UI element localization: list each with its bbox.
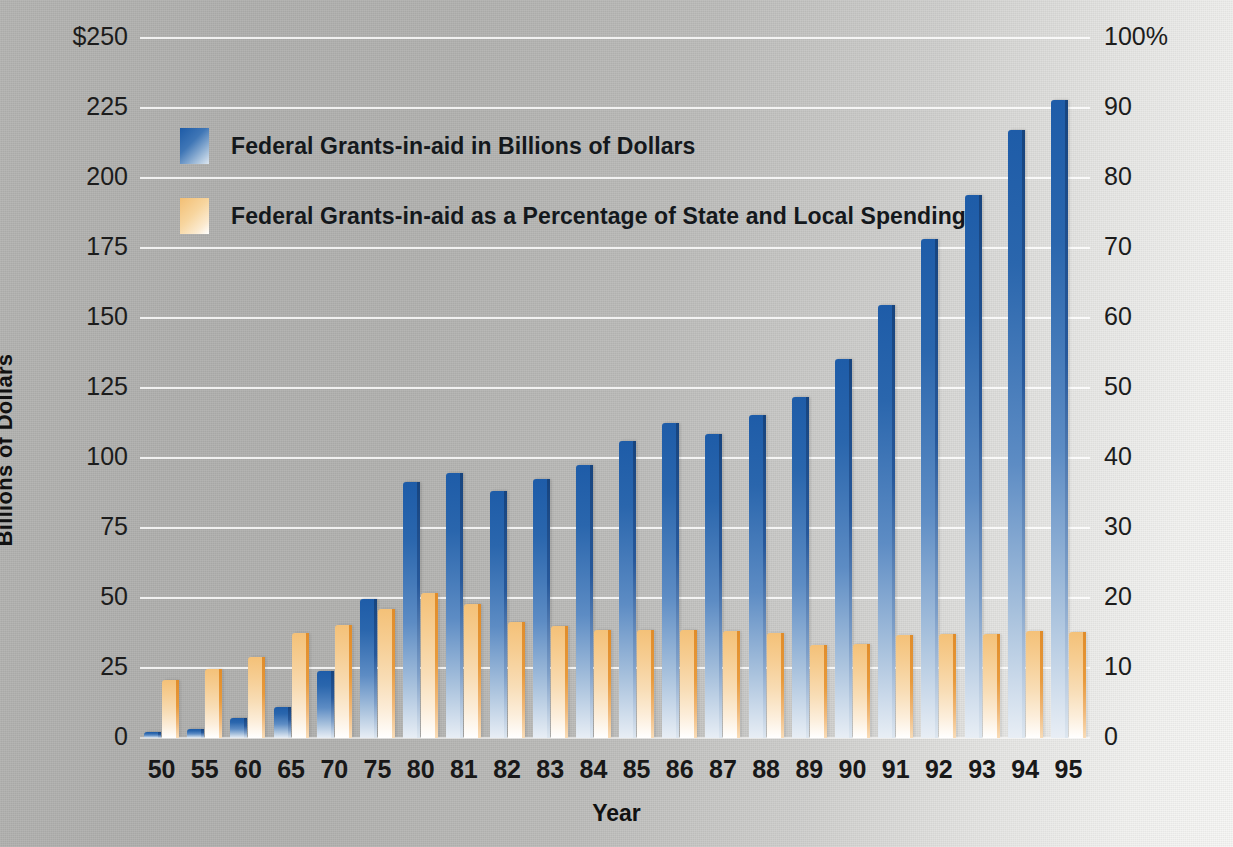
bar-billions-86	[662, 423, 679, 738]
bar-percent-94	[1026, 631, 1043, 738]
x-tick-70: 70	[313, 755, 356, 784]
x-tick-85: 85	[615, 755, 658, 784]
x-tick-86: 86	[658, 755, 701, 784]
bar-billions-93	[965, 195, 982, 738]
gridline-150	[140, 317, 1090, 319]
y-tick-left-150: 150	[8, 302, 128, 331]
legend-swatch-orange-icon	[180, 198, 209, 234]
x-tick-84: 84	[572, 755, 615, 784]
gridline-100	[140, 457, 1090, 459]
chart-legend: Federal Grants-in-aid in Billions of Dol…	[180, 128, 966, 268]
gridline-250	[140, 37, 1090, 39]
y-tick-right-0: 0	[1104, 722, 1224, 751]
x-axis-label: Year	[0, 800, 1233, 827]
bar-billions-91	[878, 305, 895, 738]
bar-percent-86	[680, 630, 697, 738]
legend-label-percentage: Federal Grants-in-aid as a Percentage of…	[231, 203, 966, 230]
bar-percent-75	[378, 609, 395, 738]
bar-billions-87	[705, 434, 722, 738]
bar-billions-83	[533, 479, 550, 738]
bar-billions-65	[274, 707, 291, 738]
bar-billions-60	[230, 718, 247, 738]
x-tick-80: 80	[399, 755, 442, 784]
bar-billions-81	[446, 473, 463, 738]
x-tick-50: 50	[140, 755, 183, 784]
y-tick-right-90: 90	[1104, 92, 1224, 121]
y-tick-left-225: 225	[8, 92, 128, 121]
x-tick-90: 90	[831, 755, 874, 784]
bar-billions-75	[360, 599, 377, 738]
y-tick-right-70: 70	[1104, 232, 1224, 261]
bar-percent-93	[983, 634, 1000, 738]
legend-swatch-blue-icon	[180, 128, 209, 164]
bar-percent-81	[464, 604, 481, 738]
x-tick-87: 87	[701, 755, 744, 784]
y-tick-right-60: 60	[1104, 302, 1224, 331]
bar-percent-87	[723, 631, 740, 738]
bar-percent-89	[810, 645, 827, 738]
bar-billions-70	[317, 671, 334, 738]
x-tick-92: 92	[917, 755, 960, 784]
y-tick-left-100: 100	[8, 442, 128, 471]
x-tick-55: 55	[183, 755, 226, 784]
bar-percent-88	[767, 633, 784, 738]
bar-percent-95	[1069, 632, 1086, 738]
bar-billions-90	[835, 359, 852, 738]
x-tick-60: 60	[226, 755, 269, 784]
bar-percent-80	[421, 593, 438, 738]
bar-percent-91	[896, 635, 913, 738]
bar-percent-70	[335, 625, 352, 738]
x-tick-89: 89	[788, 755, 831, 784]
x-tick-65: 65	[270, 755, 313, 784]
legend-item-percentage: Federal Grants-in-aid as a Percentage of…	[180, 198, 966, 234]
x-tick-95: 95	[1047, 755, 1090, 784]
y-tick-left-250: $250	[8, 22, 128, 51]
x-tick-91: 91	[874, 755, 917, 784]
y-tick-left-50: 50	[8, 582, 128, 611]
x-tick-94: 94	[1004, 755, 1047, 784]
chart-page: Federal Grants-in-aid to State and Local…	[0, 0, 1233, 847]
gridline-50	[140, 597, 1090, 599]
y-tick-right-100: 100%	[1104, 22, 1224, 51]
bar-percent-85	[637, 630, 654, 739]
x-tick-75: 75	[356, 755, 399, 784]
bar-percent-82	[508, 622, 525, 738]
y-tick-right-40: 40	[1104, 442, 1224, 471]
bar-billions-94	[1008, 130, 1025, 738]
bar-percent-55	[205, 669, 222, 738]
bar-billions-84	[576, 465, 593, 738]
bar-billions-80	[403, 482, 420, 738]
x-tick-93: 93	[960, 755, 1003, 784]
y-tick-right-30: 30	[1104, 512, 1224, 541]
x-tick-83: 83	[529, 755, 572, 784]
y-tick-right-10: 10	[1104, 652, 1224, 681]
bar-billions-55	[187, 729, 204, 738]
legend-label-billions: Federal Grants-in-aid in Billions of Dol…	[231, 133, 695, 160]
y-tick-right-50: 50	[1104, 372, 1224, 401]
bar-billions-92	[921, 239, 938, 738]
y-tick-left-175: 175	[8, 232, 128, 261]
bar-billions-88	[749, 415, 766, 738]
x-tick-88: 88	[745, 755, 788, 784]
bar-percent-65	[292, 633, 309, 738]
y-tick-left-125: 125	[8, 372, 128, 401]
gridline-125	[140, 387, 1090, 389]
legend-item-billions: Federal Grants-in-aid in Billions of Dol…	[180, 128, 966, 164]
bar-percent-84	[594, 630, 611, 739]
x-tick-81: 81	[442, 755, 485, 784]
y-tick-right-20: 20	[1104, 582, 1224, 611]
bar-percent-90	[853, 644, 870, 738]
bar-percent-92	[939, 634, 956, 738]
y-tick-left-25: 25	[8, 652, 128, 681]
y-tick-left-0: 0	[8, 722, 128, 751]
gridline-225	[140, 107, 1090, 109]
bar-billions-50	[144, 732, 161, 738]
y-tick-right-80: 80	[1104, 162, 1224, 191]
bar-percent-83	[551, 626, 568, 738]
bar-percent-50	[162, 680, 179, 738]
bar-percent-60	[248, 657, 265, 738]
bar-billions-95	[1051, 100, 1068, 738]
bar-billions-82	[490, 491, 507, 738]
bar-billions-85	[619, 441, 636, 738]
y-tick-left-75: 75	[8, 512, 128, 541]
